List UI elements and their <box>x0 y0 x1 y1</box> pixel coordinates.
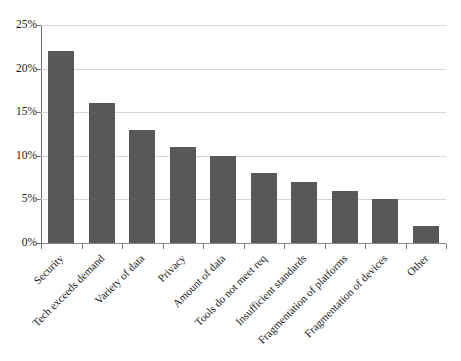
plot-area <box>41 25 446 243</box>
gridline <box>41 69 446 70</box>
x-axis-category-label: Other <box>404 252 430 278</box>
x-axis-tick-mark <box>163 244 164 249</box>
x-axis-category-label: Fragmentation of devices <box>302 252 390 340</box>
y-axis-tick-label: 15% <box>3 106 37 118</box>
gridline <box>41 25 446 26</box>
bar <box>251 173 277 243</box>
y-axis-tick-label: 25% <box>3 19 37 31</box>
bar-chart: 0%5%10%15%20%25% SecurityTech exceeds de… <box>0 0 461 361</box>
x-axis-category-label: Tech exceeds demand <box>30 252 107 329</box>
x-axis-tick-mark <box>365 244 366 249</box>
bar <box>332 191 358 243</box>
x-axis-tick-mark <box>244 244 245 249</box>
bar <box>210 156 236 243</box>
y-axis-tick-label: 10% <box>3 150 37 162</box>
bar <box>372 199 398 243</box>
x-axis-category-label: Privacy <box>155 252 187 284</box>
x-axis-tick-mark <box>325 244 326 249</box>
y-axis-tick-label: 20% <box>3 63 37 75</box>
y-axis-tick-label: 0% <box>3 237 37 249</box>
x-axis-tick-mark <box>122 244 123 249</box>
x-axis-tick-mark <box>203 244 204 249</box>
x-axis-tick-mark <box>406 244 407 249</box>
y-axis-tick-label: 5% <box>3 193 37 205</box>
x-axis-tick-mark <box>82 244 83 249</box>
bar <box>170 147 196 243</box>
bar <box>48 51 74 243</box>
x-axis-tick-mark <box>41 244 42 249</box>
x-axis-category-label: Tools do not meet req <box>192 252 268 328</box>
x-axis-category-label: Insufficient standards <box>233 252 309 328</box>
y-axis: 0%5%10%15%20%25% <box>0 0 37 361</box>
bar <box>291 182 317 243</box>
bar <box>413 226 439 243</box>
x-axis-tick-mark <box>446 244 447 249</box>
axis-baseline <box>41 243 446 244</box>
bar <box>89 103 115 243</box>
x-axis-tick-mark <box>284 244 285 249</box>
bar <box>129 130 155 243</box>
